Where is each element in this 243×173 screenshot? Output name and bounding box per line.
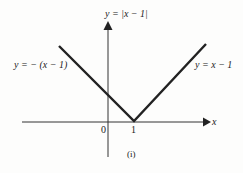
graph-title: y = |x − 1| (105, 9, 148, 19)
origin-label: 0 (101, 125, 106, 135)
x-axis-arrow-icon (203, 118, 211, 127)
y-axis-arrow-icon (104, 21, 113, 30)
left-branch-label: y = − (x − 1) (14, 60, 67, 70)
tick-label-one: 1 (131, 125, 136, 135)
figure-caption: (i) (127, 150, 136, 159)
right-branch-label: y = x − 1 (195, 60, 232, 70)
abs-value-curve (59, 44, 206, 121)
title-text: y = |x − 1| (105, 8, 148, 19)
plot-area (0, 0, 243, 173)
x-axis-label: x (212, 117, 216, 127)
abs-value-graph: y = |x − 1| y = − (x − 1) y = x − 1 0 1 … (0, 0, 243, 173)
